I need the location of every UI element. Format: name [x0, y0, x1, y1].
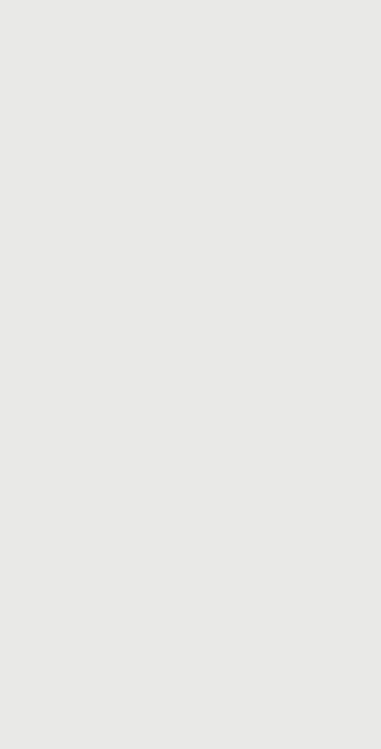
chart-top-social-expenditure: [0, 0, 381, 375]
scatter-plot-2000: [0, 375, 381, 749]
scatter-plot-1980: [0, 0, 381, 375]
chart-bottom-bargaining-coverage: [0, 375, 381, 749]
figure-page: [0, 0, 381, 749]
